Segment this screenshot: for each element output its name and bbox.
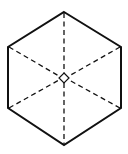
- dashed-edge-upper-right: [69, 47, 120, 76]
- dashed-edge-lower-left: [9, 80, 59, 108]
- dashed-edge-lower-right: [69, 80, 120, 108]
- cube-diagram: [0, 0, 128, 154]
- dashed-edge-upper-left: [9, 47, 59, 76]
- cube-diagram-svg: [0, 0, 128, 154]
- dashed-edges: [9, 13, 120, 144]
- center-diamond: [59, 73, 69, 83]
